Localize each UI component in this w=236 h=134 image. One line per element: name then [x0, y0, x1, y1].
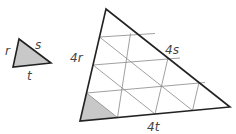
small-label-t: t	[27, 69, 33, 83]
large-label-4r: 4r	[70, 51, 84, 65]
large-label-4t: 4t	[147, 120, 161, 134]
large-triangle	[80, 9, 230, 121]
small-triangle	[13, 39, 51, 67]
similar-triangles-diagram: r s t 4r 4s 4t	[0, 0, 236, 134]
small-label-s: s	[35, 38, 41, 52]
grid-lines	[87, 34, 206, 118]
large-label-4s: 4s	[165, 43, 179, 57]
small-label-r: r	[5, 44, 11, 58]
